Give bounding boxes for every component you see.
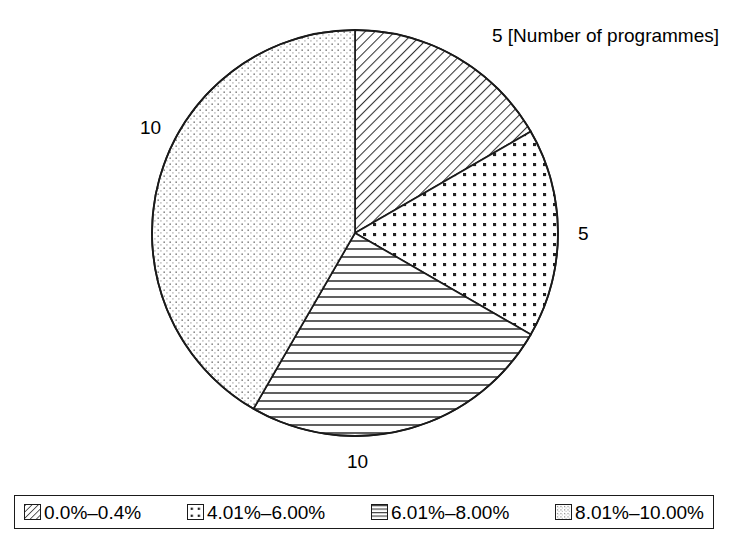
legend-item-8-01-10-00[interactable]: 8.01%–10.00% (555, 503, 704, 522)
legend-label-4-01-6-00: 4.01%–6.00% (207, 503, 325, 522)
pie-slices (152, 30, 558, 436)
legend-item-0-0-0-4[interactable]: 0.0%–0.4% (24, 503, 141, 522)
pie-chart-svg (0, 0, 745, 551)
legend-item-4-01-6-00[interactable]: 4.01%–6.00% (187, 503, 325, 522)
chart-legend: 0.0%–0.4% 4.01%–6.00% 6.01%–8.00% (14, 495, 714, 529)
legend-item-6-01-8-00[interactable]: 6.01%–8.00% (371, 503, 509, 522)
legend-swatch-dot-grid-icon (187, 504, 204, 520)
legend-swatch-diagonal-hatch-icon (24, 504, 41, 520)
slice-label-4-01-6-00: 5 (578, 224, 589, 243)
legend-label-0-0-0-4: 0.0%–0.4% (44, 503, 141, 522)
slice-label-0-0-0-4: 5 [Number of programmes] (492, 26, 719, 45)
slice-label-6-01-8-00: 10 (347, 452, 368, 471)
pie-chart-figure: 5 [Number of programmes] 5 10 10 0.0%–0.… (0, 0, 745, 551)
legend-label-6-01-8-00: 6.01%–8.00% (391, 503, 509, 522)
slice-label-8-01-10-00: 10 (140, 118, 161, 137)
legend-label-8-01-10-00: 8.01%–10.00% (575, 503, 704, 522)
legend-swatch-fine-stipple-icon (555, 504, 572, 520)
legend-swatch-horizontal-lines-icon (371, 504, 388, 520)
